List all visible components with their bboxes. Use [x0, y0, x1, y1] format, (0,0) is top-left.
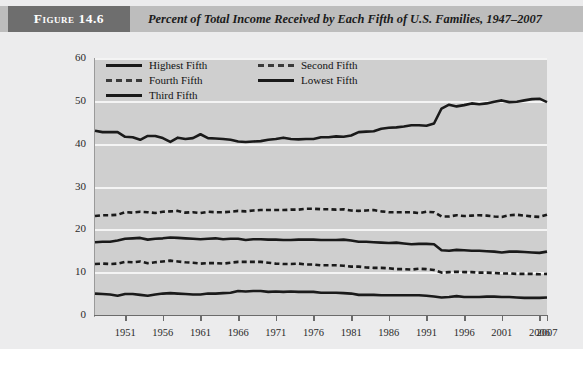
series-line-third-fifth — [95, 237, 547, 252]
series-line-fourth-fifth — [95, 261, 547, 275]
legend-label: Fourth Fifth — [149, 75, 202, 86]
x-tick-1951 — [125, 315, 126, 321]
legend-item-highest-fifth: Highest Fifth — [106, 60, 207, 71]
legend-label: Lowest Fifth — [301, 75, 358, 86]
y-tick-label-0: 0 — [46, 308, 86, 320]
x-tick-1981 — [351, 315, 352, 321]
y-tick-label-10: 10 — [46, 265, 86, 277]
y-tick-label-20: 20 — [46, 222, 86, 234]
legend-label: Highest Fifth — [149, 60, 207, 71]
x-tick-1966 — [238, 315, 239, 321]
x-tick-1986 — [389, 315, 390, 321]
y-tick-label-50: 50 — [46, 94, 86, 106]
figure-number-label: Figure 14.6 — [34, 11, 104, 27]
series-line-second-fifth — [95, 209, 547, 217]
y-tick-label-60: 60 — [46, 51, 86, 63]
legend-item-third-fifth: Third Fifth — [106, 90, 198, 101]
chart-legend: Highest FifthSecond FifthFourth FifthLow… — [106, 60, 406, 106]
x-tick-1971 — [276, 315, 277, 321]
legend-label: Second Fifth — [301, 60, 358, 71]
x-tick-label-2007: 2007 — [524, 327, 570, 338]
chart-container: Highest FifthSecond FifthFourth FifthLow… — [0, 36, 583, 346]
y-tick-label-30: 30 — [46, 180, 86, 192]
legend-swatch-solid-line-icon — [258, 79, 294, 82]
legend-label: Third Fifth — [149, 90, 198, 101]
legend-swatch-solid-line-icon — [106, 64, 142, 67]
x-tick-1996 — [464, 315, 465, 321]
figure-title: Percent of Total Income Received by Each… — [148, 6, 542, 32]
x-tick-1976 — [313, 315, 314, 321]
legend-item-lowest-fifth: Lowest Fifth — [258, 75, 358, 86]
x-tick-1991 — [426, 315, 427, 321]
x-tick-2007 — [547, 315, 548, 321]
x-tick-2006 — [539, 315, 540, 321]
figure-number-badge: Figure 14.6 — [8, 6, 130, 32]
legend-item-fourth-fifth: Fourth Fifth — [106, 75, 202, 86]
x-tick-2001 — [502, 315, 503, 321]
series-line-lowest-fifth — [95, 291, 547, 298]
x-tick-1956 — [163, 315, 164, 321]
legend-swatch-dashed-line-icon — [258, 64, 294, 67]
legend-swatch-dashed-line-icon — [106, 79, 142, 82]
figure-page: Figure 14.6 Percent of Total Income Rece… — [0, 0, 583, 370]
y-tick-label-40: 40 — [46, 137, 86, 149]
legend-item-second-fifth: Second Fifth — [258, 60, 358, 71]
x-tick-1961 — [200, 315, 201, 321]
legend-swatch-solid-line-icon — [106, 94, 142, 97]
